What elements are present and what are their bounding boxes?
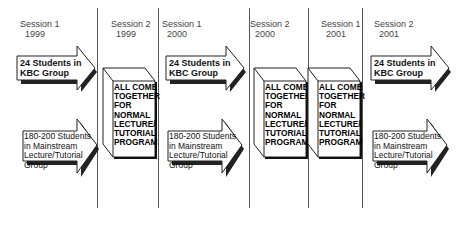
year-label: 1999 xyxy=(25,29,45,39)
mainstream-text: 180-200 Students xyxy=(374,131,441,141)
mainstream-text: Group xyxy=(24,160,48,170)
kbc-text: 24 Students in xyxy=(20,58,82,68)
session-label: Session 1 xyxy=(321,19,361,29)
column-header-2: Session 2 1999 xyxy=(111,19,151,39)
mainstream-arrow-2001: 180-200 Studentsin MainstreamLecture/Tut… xyxy=(372,118,450,180)
together-box-2000: ALL COMETOGETHERFORNORMALLECTURE/TUTORIA… xyxy=(253,67,309,159)
box-text: PROGRAM xyxy=(265,137,308,147)
kbc-text: KBC Group xyxy=(20,68,69,78)
kbc-arrow-2001: 24 Students inKBC Group xyxy=(370,45,452,95)
year-label: 1999 xyxy=(116,29,136,39)
mainstream-text: Lecture/Tutorial xyxy=(169,150,228,160)
session-label: Session 1 xyxy=(20,19,60,29)
mainstream-text: in Mainstream xyxy=(374,141,427,151)
mainstream-text: Lecture/Tutorial xyxy=(24,150,83,160)
kbc-arrow-1999: 24 Students inKBC Group xyxy=(16,45,98,95)
year-label: 2000 xyxy=(255,29,275,39)
mainstream-text: 180-200 Students xyxy=(169,131,236,141)
kbc-text: KBC Group xyxy=(169,68,218,78)
mainstream-text: Group xyxy=(374,160,398,170)
column-header-3: Session 1 2000 xyxy=(162,19,202,39)
kbc-text: KBC Group xyxy=(374,68,423,78)
session-label: Session 2 xyxy=(111,19,151,29)
box-text: PROGRAM xyxy=(319,137,362,147)
box-text: PROGRAM xyxy=(114,137,157,147)
mainstream-text: in Mainstream xyxy=(169,141,222,151)
mainstream-text: Group xyxy=(169,160,193,170)
year-label: 2001 xyxy=(379,29,399,39)
year-label: 2000 xyxy=(167,29,187,39)
session-label: Session 2 xyxy=(250,19,290,29)
year-label: 2001 xyxy=(326,29,346,39)
column-header-1: Session 1 1999 xyxy=(20,19,60,39)
kbc-text: 24 Students in xyxy=(169,58,231,68)
session-label: Session 2 xyxy=(374,19,414,29)
column-header-4: Session 2 2000 xyxy=(250,19,290,39)
together-box-2001: ALL COMETOGETHERFORNORMALLECTURE/TUTORIA… xyxy=(307,67,363,159)
mainstream-text: 180-200 Students xyxy=(24,131,91,141)
column-header-5: Session 1 2001 xyxy=(321,19,361,39)
mainstream-text: Lecture/Tutorial xyxy=(374,150,433,160)
column-header-6: Session 2 2001 xyxy=(374,19,414,39)
kbc-text: 24 Students in xyxy=(374,58,436,68)
session-label: Session 1 xyxy=(162,19,202,29)
together-box-1999: ALL COMETOGETHERFORNORMALLECTURE/TUTORIA… xyxy=(102,67,158,159)
mainstream-arrow-2000: 180-200 Studentsin MainstreamLecture/Tut… xyxy=(167,118,245,180)
kbc-arrow-2000: 24 Students inKBC Group xyxy=(165,45,247,95)
mainstream-arrow-1999: 180-200 Studentsin MainstreamLecture/Tut… xyxy=(22,118,100,180)
mainstream-text: in Mainstream xyxy=(24,141,77,151)
